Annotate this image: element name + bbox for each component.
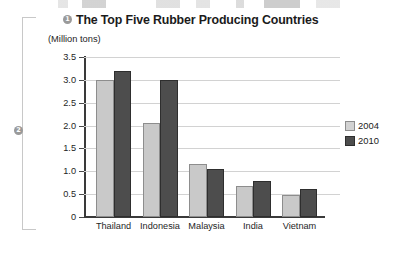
y-axis-tick-label: 1.0 [63, 166, 76, 176]
legend-label-2004: 2004 [358, 120, 379, 131]
legend-swatch-2004 [345, 121, 355, 131]
page-title: 1The Top Five Rubber Producing Countries [63, 13, 318, 27]
bar-vietnam-2010 [300, 189, 318, 217]
y-axis-tick-label: 0.5 [63, 189, 76, 199]
y-axis-tick-label: 2.5 [63, 98, 76, 108]
legend-label-2010: 2010 [358, 135, 379, 146]
y-axis-tick [79, 103, 84, 104]
x-label-vietnam: Vietnam [283, 221, 317, 231]
chart-title-text: The Top Five Rubber Producing Countries [76, 13, 318, 27]
y-axis-tick-label: 2.0 [63, 121, 76, 131]
legend-item-2010: 2010 [345, 135, 379, 146]
figure-bracket [22, 17, 36, 230]
y-axis-tick [79, 126, 84, 127]
x-label-thailand: Thailand [96, 221, 131, 231]
y-axis-tick [79, 217, 84, 218]
legend-swatch-2010 [345, 136, 355, 146]
gridline [84, 57, 340, 58]
y-axis-tick [79, 57, 84, 58]
bar-india-2010 [253, 181, 271, 217]
bar-vietnam-2004 [282, 195, 300, 217]
x-label-indonesia: Indonesia [140, 221, 180, 231]
y-axis-tick [79, 148, 84, 149]
y-axis-tick-label: 0 [71, 212, 76, 222]
bar-thailand-2004 [96, 80, 114, 217]
legend-item-2004: 2004 [345, 120, 379, 131]
y-axis-tick-labels: 3.53.02.52.01.51.00.50 [46, 0, 76, 253]
bar-malaysia-2004 [189, 164, 207, 217]
chart-figure: 2 1The Top Five Rubber Producing Countri… [0, 0, 394, 253]
bar-india-2004 [236, 186, 254, 217]
x-label-india: India [243, 221, 263, 231]
chart-legend: 2004 2010 [345, 120, 379, 150]
y-axis-tick [79, 171, 84, 172]
annotation-marker-2: 2 [14, 126, 23, 135]
bar-indonesia-2004 [143, 123, 161, 217]
y-axis-tick-label: 1.5 [63, 143, 76, 153]
y-axis-tick-label: 3.0 [63, 75, 76, 85]
y-axis-tick [79, 80, 84, 81]
y-axis-tick-label: 3.5 [63, 52, 76, 62]
bar-malaysia-2010 [207, 169, 225, 217]
scan-artifact-strip [58, 0, 343, 8]
x-label-malaysia: Malaysia [188, 221, 224, 231]
bar-indonesia-2010 [160, 80, 178, 217]
bar-thailand-2010 [114, 71, 132, 217]
y-axis-tick [79, 194, 84, 195]
plot-area [84, 57, 340, 217]
